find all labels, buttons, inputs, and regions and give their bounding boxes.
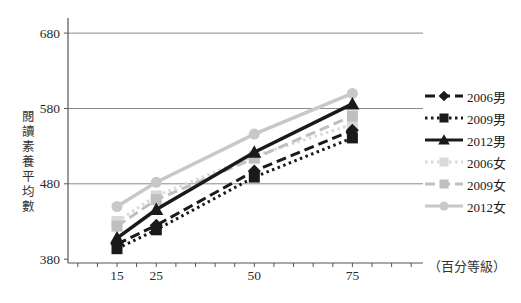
x-tick-labels: 15255075 [110,268,359,283]
x-tick-label: 75 [346,268,360,283]
x-tick-label: 15 [110,268,124,283]
marker-square [112,243,123,254]
marker-circle [439,201,448,210]
legend-label: 2009男 [467,109,506,128]
marker-square [249,172,260,183]
legend-label: 2006女 [467,153,506,172]
marker-diamond [439,91,450,102]
marker-circle [112,201,123,212]
legend-item-female-2006: 2006女 [424,151,520,173]
marker-square [440,158,449,167]
y-axis-title: 閱讀素養平均數 [19,110,33,220]
legend-label: 2012女 [467,197,506,216]
marker-square [440,114,449,123]
legend-item-female-2012: 2012女 [424,195,520,217]
legend-key-female-2006 [424,154,464,170]
legend-label: 2012男 [467,131,506,150]
legend-key-male-2006 [424,88,464,104]
legend-item-female-2009: 2009女 [424,173,520,195]
x-tick-label: 50 [248,268,262,283]
legend-key-female-2009 [424,176,464,192]
legend-key-male-2009 [424,110,464,126]
y-tick-label: 380 [40,252,61,267]
x-axis-unit-label: （百分等級） [428,256,520,275]
y-tick-label: 480 [40,176,61,191]
legend-label: 2006男 [467,87,506,106]
legend-key-female-2012 [424,198,464,214]
legend-item-male-2012: 2012男 [424,129,520,151]
marker-circle [249,129,260,140]
y-tick-label: 680 [40,26,61,41]
x-tick-label: 25 [150,268,164,283]
legend-item-male-2009: 2009男 [424,107,520,129]
marker-square [347,111,358,122]
marker-square [440,180,449,189]
marker-triangle [345,97,359,110]
legend-key-male-2012 [424,132,464,148]
marker-square [347,132,358,143]
y-tick-labels: 380480580680 [40,26,61,267]
legend-item-male-2006: 2006男 [424,85,520,107]
y-tick-label: 580 [40,101,61,116]
series-male-2009 [112,132,358,254]
marker-circle [151,177,162,188]
series-female-2006 [112,119,358,227]
series-male-2012 [110,97,359,244]
marker-square [151,224,162,235]
legend: 2006男2009男2012男2006女2009女2012女 [424,85,520,217]
legend-label: 2009女 [467,175,506,194]
marker-square [112,221,123,232]
series-female-2012 [112,88,358,212]
figure: 15255075380480580680 閱讀素養平均數 2006男2009男2… [0,0,521,303]
